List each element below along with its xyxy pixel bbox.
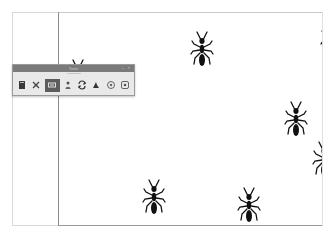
- rotate-icon: [77, 80, 87, 90]
- ant-icon[interactable]: [187, 31, 217, 73]
- move-tool-button[interactable]: [45, 79, 60, 92]
- ant-icon[interactable]: [234, 187, 264, 226]
- tool-list: [13, 75, 134, 95]
- minimize-icon[interactable]: –: [121, 66, 125, 70]
- rotate-tool-button[interactable]: [76, 79, 88, 92]
- eye-icon: [106, 80, 116, 90]
- ant-canvas[interactable]: [58, 12, 322, 226]
- target-tool-button[interactable]: [119, 79, 131, 92]
- palette-title: Tools: [13, 65, 134, 72]
- target-icon: [120, 80, 130, 90]
- person-tool-button[interactable]: [62, 79, 74, 92]
- left-panel: [12, 12, 58, 226]
- close-icon[interactable]: ×: [127, 66, 131, 70]
- move-icon: [47, 80, 57, 90]
- document-tool-button[interactable]: [16, 79, 28, 92]
- ant-icon[interactable]: [309, 141, 322, 183]
- ant-icon[interactable]: [281, 101, 311, 143]
- document-icon: [17, 80, 27, 90]
- scatter-icon: [31, 80, 41, 90]
- person-icon: [63, 80, 73, 90]
- palette-title-bar[interactable]: Tools – ×: [13, 65, 134, 72]
- canvas-right-border: [322, 12, 323, 226]
- scatter-tool-button[interactable]: [30, 79, 42, 92]
- floating-tool-palette[interactable]: Tools – ×: [12, 64, 135, 96]
- bug-icon: [91, 80, 101, 90]
- bug-tool-button[interactable]: [90, 79, 102, 92]
- eye-tool-button[interactable]: [104, 79, 116, 92]
- ant-icon[interactable]: [139, 179, 169, 221]
